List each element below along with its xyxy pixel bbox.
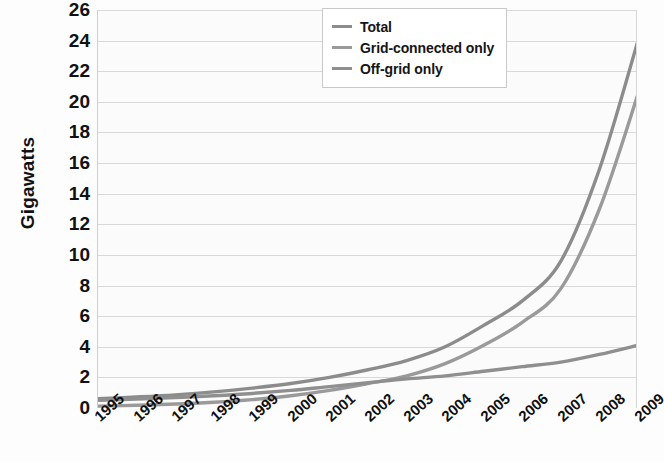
y-axis-tick-label: 6 (22, 305, 90, 327)
y-axis-tick-label: 2 (22, 366, 90, 388)
y-axis-tick-label: 4 (22, 336, 90, 358)
legend-item: Off-grid only (332, 58, 494, 79)
y-axis-tick-label: 26 (22, 0, 90, 21)
y-axis-tick-label: 0 (22, 397, 90, 419)
legend-color-swatch-icon (332, 67, 352, 70)
legend-item: Total (332, 16, 494, 37)
series-line (98, 41, 637, 399)
series-line (98, 345, 637, 400)
legend-item-label: Off-grid only (360, 61, 443, 77)
x-axis-tick-labels: 1995199619971998199920002001200220032004… (97, 412, 637, 462)
legend-item-label: Total (360, 19, 392, 35)
line-chart: Gigawatts 26242220181614121086420 Total … (0, 0, 664, 462)
legend: Total Grid-connected only Off-grid only (322, 8, 507, 88)
y-axis-tick-labels: 26242220181614121086420 (22, 0, 90, 420)
y-axis-tick-label: 20 (22, 91, 90, 113)
y-axis-tick-label: 16 (22, 152, 90, 174)
legend-color-swatch-icon (332, 25, 352, 28)
y-axis-tick-label: 14 (22, 183, 90, 205)
y-axis-tick-label: 10 (22, 244, 90, 266)
y-axis-tick-label: 18 (22, 121, 90, 143)
legend-color-swatch-icon (332, 46, 352, 49)
y-axis-tick-label: 8 (22, 275, 90, 297)
legend-item: Grid-connected only (332, 37, 494, 58)
y-axis-tick-label: 22 (22, 60, 90, 82)
legend-item-label: Grid-connected only (360, 40, 494, 56)
y-axis-tick-label: 24 (22, 30, 90, 52)
series-line (98, 94, 637, 406)
y-axis-tick-label: 12 (22, 213, 90, 235)
